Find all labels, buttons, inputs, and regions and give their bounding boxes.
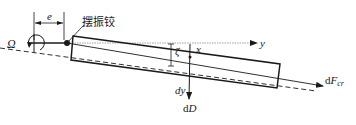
lag-hinge-point <box>64 40 70 46</box>
blade-body <box>71 36 280 88</box>
blade-lag-hinge-diagram: e 摆振铰 Ω y ζ x dy dD dFcr <box>0 0 356 125</box>
undeflected-centerline <box>0 48 316 91</box>
lag-hinge-label: 摆振铰 <box>82 15 115 29</box>
lag-angle-label: ζ <box>175 45 181 58</box>
lag-angle-dimension: ζ <box>168 44 181 66</box>
x-axis-label: x <box>195 43 201 55</box>
drag-force-label: dD <box>183 102 197 114</box>
y-axis-label: y <box>259 37 265 49</box>
centrifugal-force-label: dFcr <box>325 74 345 88</box>
hinge-offset-label: e <box>47 10 52 22</box>
element-width-label: dy <box>175 84 186 96</box>
